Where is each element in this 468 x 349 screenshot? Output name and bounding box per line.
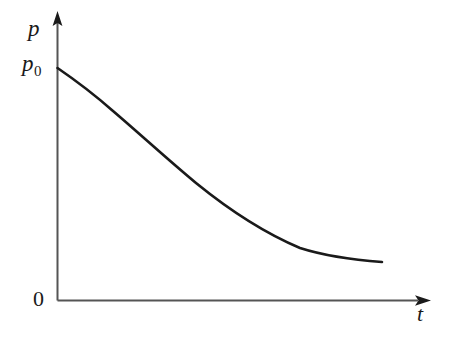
y-intercept-label: p0	[22, 52, 42, 79]
y-axis-label: p	[28, 17, 40, 40]
exponential-decay-figure: p p0 0 t	[0, 0, 468, 349]
origin-label: 0	[33, 288, 44, 310]
exponential-decay-curve	[58, 68, 383, 262]
x-axis-label: t	[417, 303, 423, 325]
plot-canvas	[0, 0, 468, 349]
y-intercept-base: p	[22, 51, 34, 76]
y-intercept-subscript: 0	[34, 63, 42, 79]
